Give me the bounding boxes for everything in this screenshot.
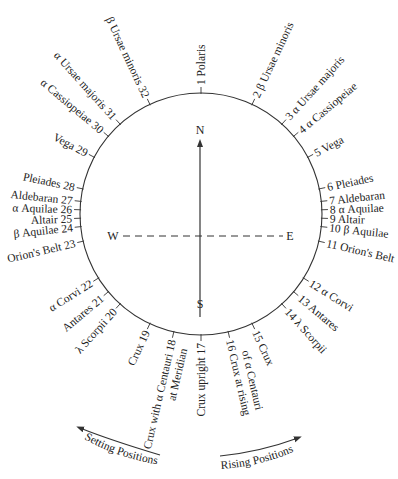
tick-20: [116, 303, 121, 308]
rising-positions-text: Rising Positions: [220, 442, 295, 471]
tick-29: [89, 154, 95, 157]
star-label-text: 11 Orion's Belt: [325, 237, 396, 264]
star-label-29: Vega 29: [51, 131, 90, 160]
star-label-text: Crux 19: [125, 328, 152, 367]
star-label-17: Crux upright 17: [195, 343, 208, 417]
star-label-2: 2 β Ursae minoris: [250, 20, 297, 100]
tick-13: [293, 291, 298, 295]
star-label-19: Crux 19: [125, 328, 152, 367]
star-label-30: α Cassiopeiae 30: [38, 76, 106, 136]
star-label-32: β Ursae minoris 32: [103, 15, 152, 100]
south-label: S: [197, 297, 204, 311]
star-label-text: 10 β Aquilae: [329, 222, 390, 241]
tick-12: [303, 278, 309, 282]
star-label-1: 1 Polaris: [195, 44, 207, 85]
star-labels: 1 Polaris2 β Ursae minoris3 α Ursae majo…: [6, 15, 396, 453]
star-label-text: Crux upright 17: [195, 343, 208, 417]
star-label-10: 10 β Aquilae: [329, 222, 390, 241]
diagram-canvas: N S W E 1 Polaris2 β Ursae minoris3 α Ur…: [0, 0, 398, 479]
tick-14: [281, 303, 286, 308]
star-label-text: Orion's Belt 23: [6, 237, 77, 264]
star-label-text: α Cassiopeiae 30: [38, 76, 106, 136]
star-label-18: Crux with α Centauri 18at Meridian: [141, 338, 191, 453]
star-label-11: 11 Orion's Belt: [325, 237, 396, 264]
east-label: E: [286, 229, 293, 243]
tick-4: [293, 132, 298, 136]
star-compass-diagram: N S W E 1 Polaris2 β Ursae minoris3 α Ur…: [0, 0, 398, 479]
north-label: N: [196, 123, 205, 137]
star-label-text: 5 Vega: [312, 133, 346, 159]
star-label-23: Orion's Belt 23: [6, 237, 77, 264]
star-label-text: 1 Polaris: [195, 44, 207, 85]
tick-31: [116, 120, 121, 125]
star-label-text: β Ursae minoris 32: [103, 15, 152, 100]
tick-21: [104, 291, 109, 295]
tick-3: [281, 120, 286, 125]
star-label-5: 5 Vega: [312, 133, 346, 159]
tick-30: [104, 132, 109, 136]
tick-22: [93, 278, 99, 282]
star-label-text: Vega 29: [51, 131, 90, 160]
rising-positions-caption: Rising Positions: [220, 442, 295, 471]
tick-5: [307, 154, 313, 157]
star-label-text: 2 β Ursae minoris: [250, 20, 297, 100]
west-label: W: [107, 229, 119, 243]
